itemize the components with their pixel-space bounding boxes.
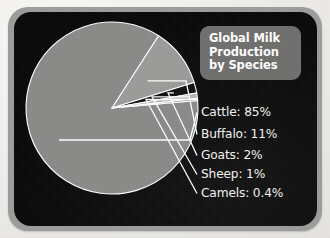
infographic-canvas: Global Milk Production by Species Cattle… [0,0,330,238]
legend-label-sheep: Sheep: 1% [201,168,265,181]
legend-label-camels: Camels: 0.4% [201,187,283,200]
legend-label-buffalo: Buffalo: 11% [201,128,277,141]
legend-label-cattle: Cattle: 85% [201,106,271,119]
chart-legend: Cattle: 85%Buffalo: 11%Goats: 2%Sheep: 1… [0,0,330,238]
legend-label-goats: Goats: 2% [201,149,262,162]
